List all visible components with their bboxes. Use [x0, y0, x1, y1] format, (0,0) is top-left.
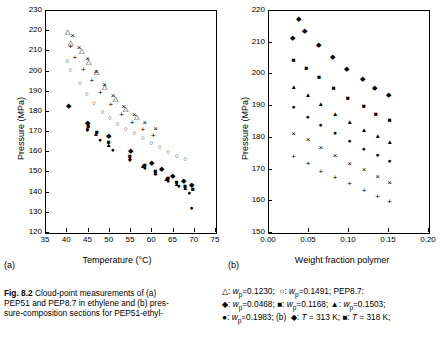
tick-mark-y	[268, 105, 272, 106]
data-point: ○	[165, 149, 172, 156]
data-point: +	[88, 77, 95, 85]
y-tick-label-130: 130	[19, 207, 42, 216]
data-point: ○	[90, 100, 97, 107]
data-point: ▲	[346, 119, 353, 126]
legend-line-3: ●: wp=0.1983; (b) ◆: T = 313 K; ■: T = 3…	[222, 312, 442, 325]
y-tick-label-170: 170	[19, 126, 42, 135]
panel-a-letter: (a)	[4, 260, 15, 270]
tick-mark-x	[151, 228, 152, 232]
data-point: ○	[182, 156, 189, 163]
data-point: ×	[93, 68, 100, 76]
tick-mark-y	[268, 73, 272, 74]
tick-mark-y	[45, 131, 49, 132]
data-point: ●	[346, 138, 353, 145]
data-point: ○	[106, 115, 113, 122]
data-point: +	[97, 89, 104, 97]
tick-mark-x	[268, 228, 269, 232]
y-tick-label-210: 210	[242, 37, 265, 46]
data-point: ▲	[361, 127, 368, 134]
y-tick-label-230: 230	[19, 5, 42, 14]
data-point: ○	[99, 109, 106, 116]
data-point: ●	[84, 127, 91, 134]
tick-mark-x	[45, 228, 46, 232]
data-point: ●	[361, 146, 368, 153]
data-point: ◆	[158, 166, 165, 173]
data-point: ×	[84, 55, 91, 63]
data-point: ×	[386, 179, 393, 187]
data-point: ○	[148, 140, 155, 147]
y-tick-label-180: 180	[242, 132, 265, 141]
data-point: ×	[374, 173, 381, 181]
data-point: ○	[156, 144, 163, 151]
data-point: ●	[175, 183, 182, 190]
tick-mark-y	[268, 42, 272, 43]
legend-line-2: ◆: wp=0.0468; ■: wp=0.1168; ▲: wp=0.1503…	[222, 299, 442, 312]
data-point: ●	[165, 178, 172, 185]
x-tick-label-0.15: 0.15	[374, 235, 402, 244]
tick-mark-y	[45, 91, 49, 92]
y-tick-label-220: 220	[242, 5, 265, 14]
data-point: ●	[317, 122, 324, 129]
data-point: ×	[361, 166, 368, 174]
x-tick-label-0.00: 0.00	[254, 235, 282, 244]
data-point: +	[374, 193, 381, 201]
data-point: ◆	[289, 35, 296, 42]
y-tick-label-160: 160	[19, 146, 42, 155]
data-point: ×	[346, 160, 353, 168]
data-point: ×	[76, 44, 83, 52]
data-point: ×	[305, 136, 312, 144]
y-tick-label-150: 150	[19, 166, 42, 175]
data-point: +	[107, 101, 114, 109]
y-tick-label-190: 190	[242, 100, 265, 109]
data-point: ◆	[329, 54, 336, 61]
data-point: ×	[120, 103, 127, 111]
data-point: ○	[114, 121, 121, 128]
data-point: +	[80, 66, 87, 74]
tick-mark-x	[348, 228, 349, 232]
panel-a-xlabel: Temperature (°C)	[52, 255, 182, 265]
tick-mark-y	[45, 151, 49, 152]
tick-mark-x	[88, 228, 89, 232]
data-point: ●	[127, 157, 134, 164]
tick-mark-y	[268, 137, 272, 138]
figure-legend: △: wp=0.1230; ○: wp=0.1491; PEP8.7: ◆: w…	[222, 286, 442, 325]
data-point: +	[305, 160, 312, 168]
data-point: ■	[345, 95, 352, 102]
data-point: ◆	[65, 103, 72, 110]
tick-mark-x	[130, 228, 131, 232]
data-point: ◆	[295, 16, 302, 23]
data-point: ◆	[315, 42, 322, 49]
data-point: ●	[141, 165, 148, 172]
data-point: ×	[101, 81, 108, 89]
data-point: ■	[386, 117, 393, 124]
data-point: ×	[332, 152, 339, 160]
figure-label: Fig. 8.2	[4, 288, 33, 298]
data-point: +	[332, 174, 339, 182]
tick-mark-y	[45, 10, 49, 11]
data-point: ○	[83, 91, 90, 98]
data-point: ○	[122, 126, 129, 133]
data-point: ●	[186, 190, 193, 197]
tick-mark-y	[45, 50, 49, 51]
data-point: ●	[332, 130, 339, 137]
tick-mark-x	[173, 228, 174, 232]
tick-mark-y	[45, 111, 49, 112]
x-tick-label-0.05: 0.05	[294, 235, 322, 244]
tick-mark-y	[45, 30, 49, 31]
data-point: +	[317, 168, 324, 176]
data-point: ×	[69, 32, 76, 40]
tick-mark-y	[268, 169, 272, 170]
y-tick-label-200: 200	[19, 66, 42, 75]
data-point: ●	[374, 152, 381, 159]
data-point: ○	[67, 67, 74, 74]
tick-mark-x	[66, 228, 67, 232]
data-point: ▲	[305, 92, 312, 99]
legend-line-1: △: wp=0.1230; ○: wp=0.1491; PEP8.7:	[222, 286, 442, 299]
data-point: +	[129, 119, 136, 127]
tick-mark-y	[268, 200, 272, 201]
data-point: ◆	[359, 76, 366, 83]
data-point: ▲	[374, 133, 381, 140]
data-point: ○	[76, 80, 83, 87]
data-point: ●	[305, 114, 312, 121]
tick-mark-y	[45, 71, 49, 72]
